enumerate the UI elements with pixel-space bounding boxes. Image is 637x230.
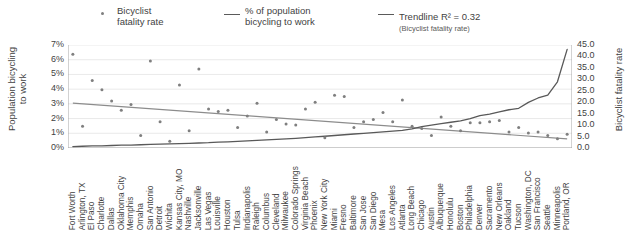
plot-svg	[68, 45, 572, 148]
x-axis-label: Tucson	[514, 203, 522, 230]
scatter-point	[391, 120, 394, 123]
x-axis-label: Charlotte	[97, 196, 105, 230]
x-axis-label: Baltimore	[349, 195, 357, 230]
scatter-point	[178, 84, 181, 87]
x-axis-label: Portland, OR	[562, 182, 570, 230]
x-axis-label: New Orleans	[494, 182, 502, 230]
scatter-point	[401, 98, 404, 101]
y-right-tick-9: 0.0	[577, 142, 590, 152]
scatter-point	[566, 133, 569, 136]
y-right-tick-8: 5.0	[577, 131, 590, 141]
scatter-point	[275, 118, 278, 121]
x-axis-label: Minneapolis	[552, 186, 560, 230]
y-right-tick-5: 20.0	[577, 96, 595, 106]
y-axis-left-ticks: 7%6%5%4%3%2%1%0%	[28, 40, 64, 152]
x-axis-label: Fort Worth	[68, 191, 76, 230]
x-axis-label: Omaha	[136, 203, 144, 230]
x-axis-label: Oklahoma City	[116, 176, 124, 230]
x-axis-label: San Francisco	[533, 177, 541, 230]
chart-legend: Bicyclist fatality rate % of population …	[0, 0, 637, 36]
y-axis-right-ticks: 45.040.035.030.025.020.015.010.05.00.0	[577, 40, 613, 152]
legend-item-trendline[interactable]: Trendline R² = 0.32 (Bicyclist fatality …	[378, 6, 480, 33]
x-axis-label: San Diego	[368, 191, 376, 230]
x-axis-label: Austin	[426, 207, 434, 230]
y-axis-left-title: Population bicycling to work	[6, 41, 28, 137]
x-axis-label: Arlington, TX	[77, 182, 85, 230]
x-axis-label: Philadelphia	[465, 185, 473, 230]
x-axis-label: Denver	[475, 203, 483, 230]
x-axis-label: Washington, DC	[523, 170, 531, 230]
scatter-point	[159, 120, 162, 123]
scatter-point	[139, 134, 142, 137]
scatter-point	[100, 88, 103, 91]
x-axis-label: Atlanta	[397, 204, 405, 230]
scatter-point	[256, 102, 259, 105]
x-axis-label: Seattle	[543, 204, 551, 230]
y-left-tick-4: 3%	[51, 98, 64, 108]
x-axis-label: Milwaukee	[281, 191, 289, 230]
y-left-tick-5: 2%	[51, 113, 64, 123]
y-left-tick-3: 4%	[51, 83, 64, 93]
y-right-tick-0: 45.0	[577, 39, 595, 49]
x-axis-label: Houston	[223, 199, 231, 230]
x-axis-label: Mesa	[378, 210, 386, 230]
scatter-point	[372, 118, 375, 121]
y-left-tick-6: 1%	[51, 127, 64, 137]
y-right-tick-6: 15.0	[577, 108, 595, 118]
y-left-tick-7: 0%	[51, 142, 64, 152]
scatter-point	[556, 137, 559, 140]
scatter-point	[285, 122, 288, 125]
legend-item-population-bicycling[interactable]: % of population bicycling to work	[224, 6, 315, 27]
scatter-point	[197, 68, 200, 71]
scatter-point	[91, 79, 94, 82]
scatter-point	[469, 121, 472, 124]
scatter-point	[207, 108, 210, 111]
x-axis-label: Jacksonville	[194, 185, 202, 230]
scatter-point	[168, 140, 171, 143]
legend-item-bicyclist-fatality-rate[interactable]: Bicyclist fatality rate	[96, 6, 163, 27]
x-axis-label: Kansas City, MO	[174, 168, 182, 230]
scatter-point	[314, 101, 317, 104]
scatter-point	[440, 116, 443, 119]
population-line-series	[73, 49, 567, 146]
x-axis-label: Virginia Beach	[300, 177, 308, 230]
scatter-point	[449, 125, 452, 128]
scatter-point	[71, 53, 74, 56]
x-axis-label: Miami	[329, 208, 337, 230]
dot-marker-icon	[96, 8, 112, 20]
scatter-point	[343, 95, 346, 98]
scatter-point	[149, 60, 152, 63]
x-axis-label: Oakland	[504, 199, 512, 230]
scatter-point	[527, 132, 530, 135]
scatter-point	[246, 114, 249, 117]
scatter-point	[488, 120, 491, 123]
scatter-point	[265, 130, 268, 133]
x-axis-label: Phoenix	[310, 200, 318, 230]
x-axis-label: Las Vegas	[203, 191, 211, 230]
scatter-point	[411, 125, 414, 128]
x-axis-label: Honolulu	[446, 197, 454, 230]
legend-label-population: % of population bicycling to work	[245, 6, 315, 27]
x-axis-label: San Antonio	[145, 185, 153, 230]
x-axis-label: Indianapolis	[242, 186, 250, 230]
scatter-point	[120, 109, 123, 112]
x-axis-label: Detroit	[155, 206, 163, 230]
x-axis-label: Fresno	[339, 204, 347, 230]
x-axis-label: El Paso	[87, 201, 95, 230]
scatter-point	[130, 103, 133, 106]
scatter-point	[537, 130, 540, 133]
y-right-tick-4: 25.0	[577, 85, 595, 95]
x-axis-label: Colorado Springs	[291, 166, 299, 230]
scatter-point	[517, 126, 520, 129]
scatter-point	[459, 129, 462, 132]
scatter-point	[382, 111, 385, 114]
scatter-point	[110, 100, 113, 103]
scatter-point	[226, 109, 229, 112]
chart-root: Bicyclist fatality rate % of population …	[0, 0, 637, 230]
y-right-tick-7: 10.0	[577, 119, 595, 129]
y-left-tick-2: 5%	[51, 68, 64, 78]
x-axis-label: Boston	[455, 204, 463, 230]
x-axis-label: San Jose	[359, 195, 367, 230]
y-left-tick-0: 7%	[51, 39, 64, 49]
scatter-point	[236, 126, 239, 129]
